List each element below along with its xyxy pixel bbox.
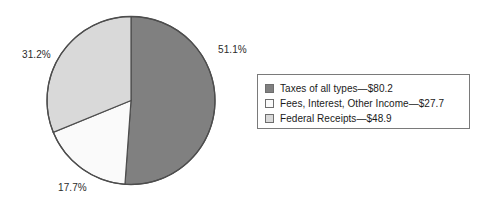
- chart-legend: Taxes of all types—$80.2 Fees, Interest,…: [257, 74, 470, 129]
- legend-item-taxes-of-all-types[interactable]: Taxes of all types—$80.2: [265, 81, 469, 95]
- legend-item-federal-receipts[interactable]: Federal Receipts—$48.9: [265, 111, 469, 125]
- legend-swatch-icon-taxes-of-all-types: [265, 84, 274, 93]
- pie-chart-figure: 51.1% 31.2% 17.7% Taxes of all types—$80…: [0, 0, 485, 208]
- legend-label-taxes-of-all-types: Taxes of all types—$80.2: [280, 83, 393, 94]
- pie-label-federal-receipts-percent: 31.2%: [22, 49, 51, 60]
- legend-label-federal-receipts: Federal Receipts—$48.9: [280, 113, 392, 124]
- legend-item-fees-interest-other-income[interactable]: Fees, Interest, Other Income—$27.7: [265, 96, 469, 110]
- pie-label-taxes-percent: 51.1%: [218, 44, 247, 55]
- legend-label-fees-interest-other-income: Fees, Interest, Other Income—$27.7: [280, 98, 444, 109]
- legend-swatch-icon-federal-receipts: [265, 114, 274, 123]
- pie-slice-taxes-of-all-types[interactable]: [125, 16, 215, 184]
- pie-slices: [47, 16, 215, 184]
- legend-swatch-icon-fees-interest-other-income: [265, 99, 274, 108]
- pie-label-fees-percent: 17.7%: [58, 182, 87, 193]
